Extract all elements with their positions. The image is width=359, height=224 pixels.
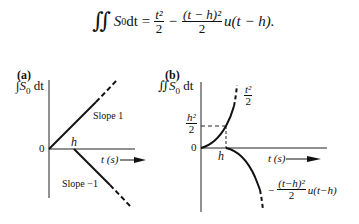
panel-a-slope-up-dashed xyxy=(96,79,118,102)
panel-b-curve-up-label: t² 2 xyxy=(244,84,252,107)
panel-b-xlabel: t (s) xyxy=(268,152,285,164)
panel-a-slope-down-dashed xyxy=(110,185,132,208)
panel-b-double-integral-symbol: ∬ xyxy=(158,78,169,93)
panel-b-curve-down-den: 2 xyxy=(288,190,296,201)
panel-b-parabola-up-solid xyxy=(201,106,234,148)
panel-b-curve-down-tail: u(t−h) xyxy=(308,184,337,196)
panel-b-parabola-up-dashed xyxy=(234,85,237,106)
panel-a-ylabel: ∫S0 dt xyxy=(16,78,44,96)
panel-b-origin-label: 0 xyxy=(191,141,197,153)
panel-b-ylabel: ∬S0 dt xyxy=(158,78,193,96)
panel-a-origin-label: 0 xyxy=(39,142,45,154)
panel-a-ylabel-dt: dt xyxy=(31,78,44,93)
panel-a-t-arrow-head xyxy=(134,157,146,163)
panel-b-yvalue-den: 2 xyxy=(188,124,196,135)
panel-a-xlabel-text: t (s) xyxy=(101,153,118,165)
panel-a-h-label: h xyxy=(71,135,77,150)
panel-b-yvalue-label: h² 2 xyxy=(186,112,197,135)
panel-b-ylabel-dt: dt xyxy=(180,78,193,93)
panel-b-xlabel-text: t (s) xyxy=(268,152,285,164)
panel-b-curve-up-den: 2 xyxy=(244,96,252,107)
panel-b-t-arrow-head xyxy=(307,156,321,162)
panel-a-slope-minus1-label: Slope −1 xyxy=(62,178,98,189)
panel-b-parabola-down-solid xyxy=(226,148,260,190)
panel-b-curve-down-frac: (t−h)² 2 xyxy=(277,178,306,201)
panel-a-xlabel: t (s) xyxy=(101,153,118,165)
panel-b-parabola-down-dashed xyxy=(260,190,263,210)
panel-b-curve-down-minus: − xyxy=(268,184,274,196)
panel-b-curve-down-label: − (t−h)² 2 u(t−h) xyxy=(268,178,337,201)
panel-b-h-label: h xyxy=(218,149,224,164)
panel-a-slope-1-label: Slope 1 xyxy=(93,110,123,121)
